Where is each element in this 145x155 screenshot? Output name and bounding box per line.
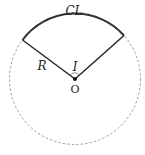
radius-line-left: [23, 40, 76, 79]
radius-label: R: [36, 59, 46, 73]
circular-curve-diagram: CL R I O: [0, 0, 145, 155]
center-point: [73, 77, 77, 81]
center-label: O: [70, 83, 79, 96]
angle-label: I: [72, 60, 78, 74]
radius-line-right: [75, 36, 124, 80]
arc-length-label: CL: [65, 4, 82, 18]
